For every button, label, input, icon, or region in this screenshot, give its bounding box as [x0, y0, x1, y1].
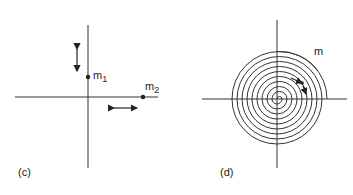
- mass-m2-label: m2: [145, 80, 159, 92]
- mass-m2-dot: [141, 95, 145, 99]
- panel-c-axes: [15, 25, 158, 168]
- figure-canvas: [0, 0, 353, 195]
- mass-m1-dot: [86, 75, 90, 79]
- mass-m-dot: [300, 81, 304, 85]
- panel-c-caption: (c): [18, 166, 31, 178]
- panel-d-caption: (d): [220, 166, 233, 178]
- mass-m-label: m: [314, 45, 323, 57]
- mass-m1-label: m1: [93, 69, 107, 81]
